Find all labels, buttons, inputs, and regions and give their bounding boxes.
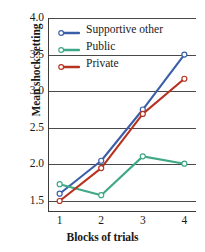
x-axis-tick-labels: 1234 — [48, 214, 196, 230]
y-tick-label-3.5: 3.5 — [18, 49, 44, 60]
data-point-marker — [57, 199, 62, 204]
legend-item-label: Public — [86, 40, 115, 52]
series-line — [60, 55, 185, 194]
data-point-marker — [99, 193, 104, 198]
data-point-marker — [140, 154, 145, 159]
y-tick-label-3.0: 3.0 — [18, 85, 44, 96]
series-line — [60, 156, 185, 195]
data-point-marker — [182, 76, 187, 81]
data-point-marker — [99, 166, 104, 171]
data-point-marker — [57, 191, 62, 196]
legend: Supportive otherPublicPrivate — [58, 20, 198, 71]
data-point-marker — [140, 111, 145, 116]
data-point-marker — [57, 182, 62, 187]
x-tick-label-4: 4 — [174, 214, 194, 227]
x-tick-label-3: 3 — [133, 214, 153, 227]
x-tick-label-2: 2 — [91, 214, 111, 227]
legend-item-supportive-other[interactable]: Supportive other — [58, 20, 198, 37]
legend-item-public[interactable]: Public — [58, 37, 198, 54]
legend-marker-icon — [58, 41, 80, 51]
x-axis-title: Blocks of trials — [0, 231, 205, 243]
legend-marker-icon — [58, 24, 80, 34]
y-axis-tick-labels: 1.52.02.53.03.54.0 — [14, 0, 44, 252]
y-tick-label-4.0: 4.0 — [18, 12, 44, 23]
y-tick-label-2.5: 2.5 — [18, 122, 44, 133]
y-tick-label-2.0: 2.0 — [18, 158, 44, 169]
series-public — [57, 154, 187, 198]
series-line — [60, 79, 185, 201]
x-tick-label-1: 1 — [50, 214, 70, 227]
chart-figure: Mean shock setting 1.52.02.53.03.54.0 Su… — [0, 0, 205, 252]
data-point-marker — [182, 161, 187, 166]
legend-marker-icon — [58, 58, 80, 68]
legend-item-label: Supportive other — [86, 23, 163, 35]
data-point-marker — [99, 158, 104, 163]
legend-item-private[interactable]: Private — [58, 54, 198, 71]
y-tick-label-1.5: 1.5 — [18, 195, 44, 206]
series-private — [57, 76, 187, 203]
legend-item-label: Private — [86, 57, 119, 69]
